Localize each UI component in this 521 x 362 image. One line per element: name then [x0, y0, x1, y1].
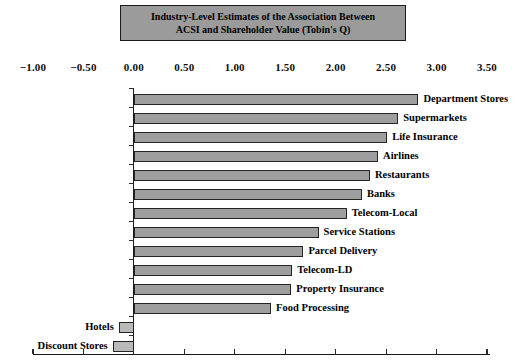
- y-axis-tick: [129, 183, 134, 184]
- figure-tobins-q-chart: Industry-Level Estimates of the Associat…: [0, 0, 521, 362]
- bar-label-property-insurance: Property Insurance: [296, 282, 384, 296]
- x-tick-label-3.00: 3.00: [415, 61, 459, 73]
- bar-restaurants: [134, 170, 370, 181]
- x-tick-label-0.00: 0.00: [112, 61, 156, 73]
- x-tick-label-0.50: 0.50: [162, 61, 206, 73]
- bar-service-stations: [134, 227, 319, 238]
- x-axis-tick: [234, 349, 235, 354]
- x-tick-label-1.00: 1.00: [213, 61, 257, 73]
- y-axis-tick: [129, 164, 134, 165]
- y-axis-tick: [129, 240, 134, 241]
- bar-airlines: [134, 151, 378, 162]
- bar-label-telecom-local: Telecom-Local: [352, 206, 418, 220]
- bar-label-banks: Banks: [367, 187, 395, 201]
- bar-label-service-stations: Service Stations: [324, 225, 395, 239]
- y-axis-tick: [129, 126, 134, 127]
- x-axis-tick: [335, 349, 336, 354]
- bar-label-airlines: Airlines: [383, 149, 419, 163]
- bar-label-department-stores: Department Stores: [423, 92, 508, 106]
- x-axis-tick: [32, 349, 33, 354]
- x-tick-label--0.50: −0.50: [61, 61, 105, 73]
- bar-food-processing: [134, 303, 271, 314]
- y-axis-tick: [129, 88, 134, 89]
- x-axis-tick: [386, 349, 387, 354]
- x-tick-label-3.50: 3.50: [465, 61, 509, 73]
- chart-title-line1: Industry-Level Estimates of the Associat…: [151, 10, 375, 23]
- bar-label-food-processing: Food Processing: [276, 301, 349, 315]
- x-tick-label--1.00: −1.00: [11, 61, 55, 73]
- bar-hotels: [119, 322, 134, 333]
- y-axis-tick: [129, 202, 134, 203]
- bar-label-telecom-ld: Telecom-LD: [297, 263, 352, 277]
- bar-label-discount-stores: Discount Stores: [38, 339, 108, 353]
- x-axis-tick: [285, 349, 286, 354]
- y-axis-tick: [129, 297, 134, 298]
- x-axis-tick: [436, 349, 437, 354]
- bar-department-stores: [134, 94, 419, 105]
- x-tick-label-2.00: 2.00: [314, 61, 358, 73]
- x-axis-tick: [184, 349, 185, 354]
- bar-discount-stores: [113, 341, 134, 352]
- x-tick-label-1.50: 1.50: [263, 61, 307, 73]
- chart-title-line2: ACSI and Shareholder Value (Tobin's Q): [176, 23, 351, 36]
- chart-title-box: Industry-Level Estimates of the Associat…: [120, 5, 406, 41]
- bar-property-insurance: [134, 284, 291, 295]
- x-axis-line: [33, 354, 490, 355]
- bar-banks: [134, 189, 362, 200]
- y-axis-tick: [129, 145, 134, 146]
- bar-label-restaurants: Restaurants: [375, 168, 429, 182]
- bar-label-supermarkets: Supermarkets: [403, 111, 467, 125]
- bar-telecom-local: [134, 208, 347, 219]
- bar-life-insurance: [134, 132, 387, 143]
- x-tick-label-2.50: 2.50: [364, 61, 408, 73]
- y-axis-tick: [129, 278, 134, 279]
- bar-label-parcel-delivery: Parcel Delivery: [308, 244, 377, 258]
- bar-parcel-delivery: [134, 246, 304, 257]
- bar-label-life-insurance: Life Insurance: [392, 130, 458, 144]
- y-axis-tick: [129, 316, 134, 317]
- y-axis-tick: [129, 221, 134, 222]
- bar-label-hotels: Hotels: [85, 320, 114, 334]
- bar-supermarkets: [134, 113, 398, 124]
- x-axis-tick: [486, 349, 487, 354]
- bar-telecom-ld: [134, 265, 292, 276]
- y-axis-tick: [129, 335, 134, 336]
- y-axis-tick: [129, 107, 134, 108]
- y-axis-tick: [129, 259, 134, 260]
